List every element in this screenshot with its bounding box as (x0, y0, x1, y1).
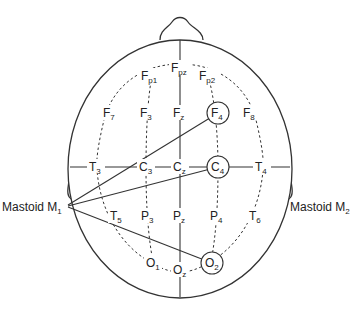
electrode-t5: T5 (108, 208, 126, 225)
electrode-o1: O1 (144, 255, 162, 272)
electrode-c3: C3 (137, 159, 155, 176)
electrode-fz: Fz (171, 105, 189, 122)
electrode-p4: P4 (208, 208, 226, 225)
electrode-t3: T3 (87, 159, 105, 176)
mastoid-m1-label: Mastoid M1 (2, 200, 62, 216)
electrode-c4: C4 (207, 156, 229, 178)
electrode-t4: T4 (253, 159, 271, 176)
mastoid-m2-label: Mastoid M2 (290, 200, 350, 216)
electrode-f8: F8 (241, 105, 259, 122)
nose (160, 18, 203, 41)
electrode-f7: F7 (101, 105, 119, 122)
electrode-fp2: Fp2 (197, 68, 219, 85)
electrode-t6: T6 (247, 208, 265, 225)
electrode-f4: F4 (207, 102, 229, 124)
electrode-cz: Cz (171, 159, 189, 176)
electrode-o2: O2 (201, 252, 223, 274)
electrode-oz: Oz (171, 262, 189, 279)
electrode-p3: P3 (139, 208, 157, 225)
electrode-fpz: Fpz (169, 60, 191, 77)
electrode-fp1: Fp1 (139, 68, 161, 85)
eeg-head-diagram: FpzFp1Fp2F7F3FzF4F8T3C3CzC4T4T5P3PzP4T6O… (0, 0, 358, 314)
electrode-f3: F3 (138, 105, 156, 122)
electrode-pz: Pz (171, 208, 189, 225)
